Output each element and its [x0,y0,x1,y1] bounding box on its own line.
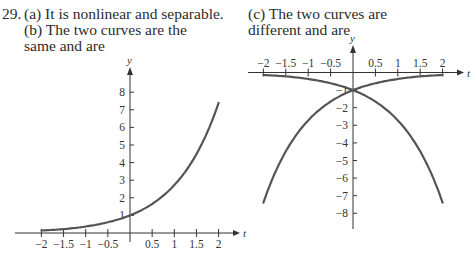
x-tick-label: −2 [257,57,269,69]
x-tick-label: 0.5 [368,57,383,69]
x-axis-arrow-icon [457,70,464,76]
chart-right-two-curves: ty−2−1.5−1−0.50.511.52−1−2−3−4−5−6−7−8 [0,0,476,258]
y-tick-label: −2 [336,102,348,114]
y-tick-label: −5 [336,155,348,167]
y-axis-label: y [349,32,355,44]
x-tick-label: −1.5 [275,57,296,69]
y-axis-arrow-icon [350,45,356,53]
x-tick-label: −0.5 [320,57,341,69]
y-tick-label: −4 [336,137,348,149]
y-tick-label: −7 [336,190,348,202]
y-tick-label: −8 [336,207,348,219]
x-tick-label: 2 [440,57,446,69]
x-tick-label: 1.5 [413,57,428,69]
x-axis-label: t [467,67,471,79]
x-tick-label: 1 [395,57,401,69]
x-tick-label: −1 [302,57,314,69]
y-tick-label: −6 [336,172,348,184]
y-tick-label: −3 [336,119,348,131]
